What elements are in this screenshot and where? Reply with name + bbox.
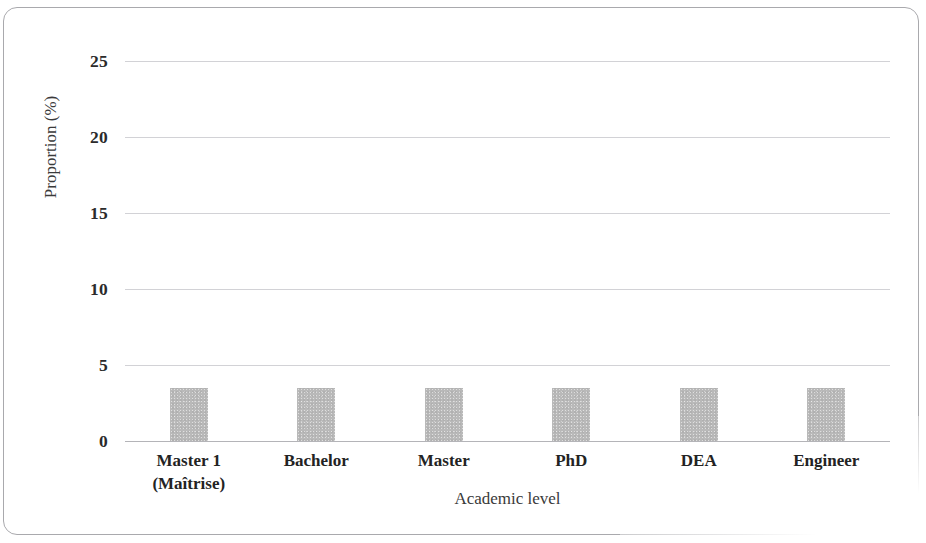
- y-tick-label: 10: [90, 279, 108, 300]
- bar-cell: [635, 61, 763, 441]
- bar-cell: [763, 61, 891, 441]
- bar: [552, 388, 590, 441]
- bar: [170, 388, 208, 441]
- bar: [807, 388, 845, 441]
- y-tick-label: 0: [99, 431, 108, 452]
- x-axis-line: [125, 441, 890, 442]
- plot-area: 0510152025: [125, 61, 890, 441]
- bar: [297, 388, 335, 441]
- bar-cell: [380, 61, 508, 441]
- bar: [680, 388, 718, 441]
- y-tick-label: 5: [99, 355, 108, 376]
- y-tick-label: 25: [90, 51, 108, 72]
- bar-cell: [125, 61, 253, 441]
- y-tick-label: 20: [90, 127, 108, 148]
- x-axis-label: Academic level: [125, 489, 890, 509]
- bar-series: [125, 61, 890, 441]
- bar: [425, 388, 463, 441]
- y-axis-label: Proportion (%): [41, 72, 61, 222]
- y-tick-label: 15: [90, 203, 108, 224]
- bar-cell: [508, 61, 636, 441]
- bar-cell: [253, 61, 381, 441]
- chart-figure: Proportion (%) 0510152025 Master 1 (Maît…: [0, 0, 926, 543]
